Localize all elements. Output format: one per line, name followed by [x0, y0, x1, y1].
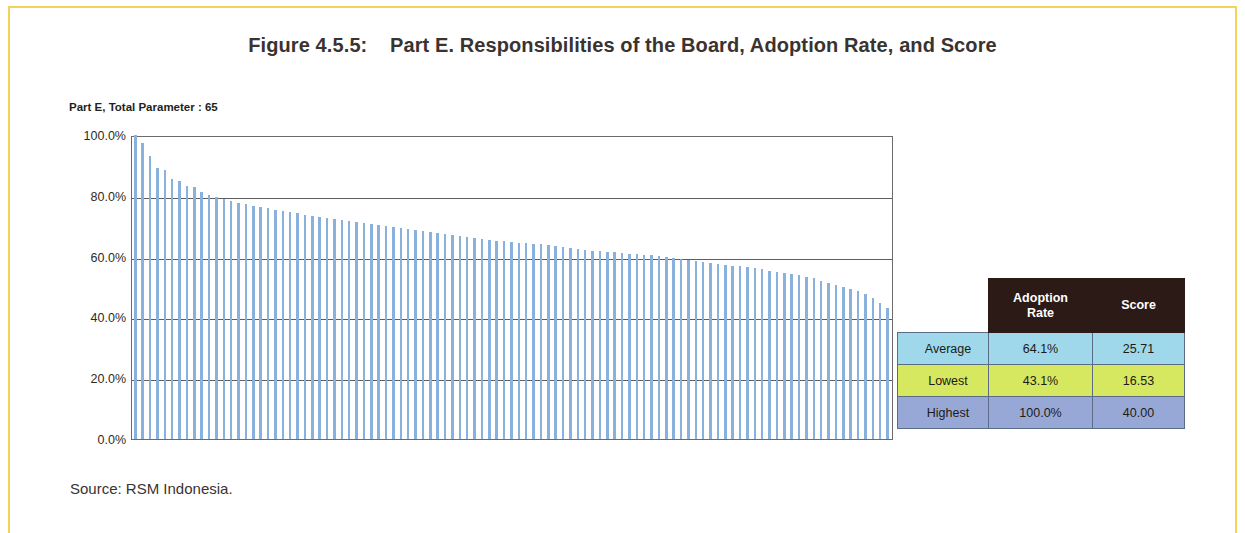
y-axis: 100.0%80.0%60.0%40.0%20.0%0.0%: [60, 136, 126, 440]
bar: [466, 237, 469, 439]
bar: [186, 186, 189, 439]
bar: [584, 250, 587, 439]
column-header-adoption-rate: AdoptionRate: [989, 279, 1093, 333]
table-header-row: AdoptionRate Score: [898, 279, 1185, 333]
source-note: Source: RSM Indonesia.: [70, 480, 233, 497]
bar: [857, 291, 860, 439]
y-axis-tick-label: 20.0%: [91, 372, 126, 386]
bar: [776, 272, 779, 439]
bar: [835, 285, 838, 439]
bar: [282, 211, 285, 439]
cell-adoption-rate: 100.0%: [989, 397, 1093, 429]
bar: [230, 201, 233, 439]
figure-title: Figure 4.5.5: Part E. Responsibilities o…: [0, 34, 1245, 57]
bar: [532, 244, 535, 439]
bar: [783, 273, 786, 439]
bar-series: [132, 137, 892, 439]
bar: [267, 208, 270, 439]
bar: [495, 241, 498, 439]
bar: [156, 168, 159, 439]
bar: [304, 215, 307, 439]
bar: [790, 274, 793, 439]
bar: [178, 181, 181, 439]
bar: [311, 216, 314, 439]
row-label-average: Average: [898, 333, 989, 365]
cell-score: 16.53: [1093, 365, 1185, 397]
bar: [606, 252, 609, 439]
bar: [547, 245, 550, 439]
bar: [518, 243, 521, 439]
bar: [422, 231, 425, 439]
bar: [510, 242, 513, 439]
bar: [761, 269, 764, 439]
bar: [709, 263, 712, 439]
bar: [193, 187, 196, 439]
bar: [621, 253, 624, 439]
bar: [842, 287, 845, 439]
bar: [289, 212, 292, 439]
cell-score: 40.00: [1093, 397, 1185, 429]
bar: [849, 289, 852, 439]
bar: [569, 248, 572, 439]
bar: [827, 283, 830, 439]
summary-statistics-table: AdoptionRate Score Average64.1%25.71Lowe…: [897, 278, 1185, 429]
bar: [643, 255, 646, 439]
cell-score: 25.71: [1093, 333, 1185, 365]
table-header: AdoptionRate Score: [898, 279, 1185, 333]
bar: [746, 267, 749, 439]
bar: [385, 226, 388, 439]
bar: [377, 225, 380, 439]
y-axis-tick-label: 80.0%: [91, 190, 126, 204]
bar: [259, 207, 262, 439]
y-axis-tick-label: 40.0%: [91, 311, 126, 325]
bar: [237, 203, 240, 440]
bar: [481, 239, 484, 439]
bar: [318, 217, 321, 439]
chart-subtitle: Part E, Total Parameter : 65: [69, 101, 218, 113]
bar: [407, 229, 410, 439]
bar: [879, 303, 882, 439]
bar: [886, 308, 889, 439]
bar: [695, 261, 698, 439]
cell-adoption-rate: 64.1%: [989, 333, 1093, 365]
bar: [355, 222, 358, 439]
bar: [208, 195, 211, 439]
bar: [459, 236, 462, 439]
row-label-lowest: Lowest: [898, 365, 989, 397]
bar: [215, 197, 218, 439]
bar: [473, 238, 476, 439]
bar: [414, 230, 417, 439]
bar: [370, 224, 373, 439]
bar: [200, 192, 203, 439]
bar: [717, 264, 720, 439]
bar: [171, 179, 174, 439]
y-axis-tick-label: 60.0%: [91, 251, 126, 265]
bar: [503, 241, 506, 439]
bar: [628, 254, 631, 439]
bar: [223, 199, 226, 439]
bar: [562, 247, 565, 439]
bar: [687, 260, 690, 439]
bar: [724, 265, 727, 439]
bar: [864, 294, 867, 439]
bar: [731, 266, 734, 439]
bar: [149, 156, 152, 439]
bar: [429, 232, 432, 439]
bar: [739, 266, 742, 439]
bar: [591, 251, 594, 439]
table-row: Average64.1%25.71: [898, 333, 1185, 365]
bar: [672, 258, 675, 439]
bar: [341, 220, 344, 439]
bar: [702, 262, 705, 439]
bar: [252, 206, 255, 439]
bar: [296, 213, 299, 439]
bar: [636, 254, 639, 439]
bar: [333, 219, 336, 439]
bar: [540, 244, 543, 439]
bar: [348, 221, 351, 439]
bar: [274, 210, 277, 439]
bar: [451, 235, 454, 439]
bar: [820, 281, 823, 439]
bar: [813, 278, 816, 439]
bar: [599, 251, 602, 439]
